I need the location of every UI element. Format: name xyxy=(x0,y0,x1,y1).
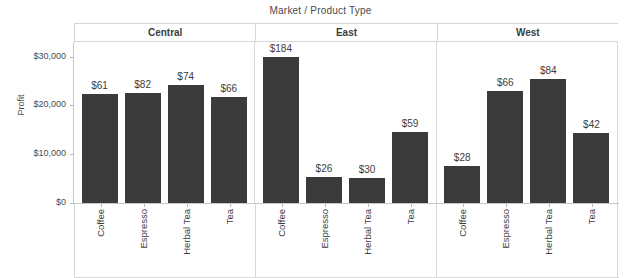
panel-header-west: West xyxy=(438,24,618,41)
x-category-label[interactable]: Tea xyxy=(225,209,235,224)
x-slot: Herbal Tea xyxy=(350,204,386,278)
x-tick-mark xyxy=(549,204,550,207)
panel-header-central: Central xyxy=(74,24,256,41)
x-tick-mark xyxy=(368,204,369,207)
x-tick-mark xyxy=(101,204,102,207)
x-slot: Espresso xyxy=(307,204,343,278)
bar-slot: $66 xyxy=(211,42,247,203)
bar-slot: $28 xyxy=(444,42,480,203)
bar[interactable] xyxy=(530,79,566,203)
panel-bars: $184$26$30$59 xyxy=(255,42,435,203)
bar-chart: Market / Product Type CentralEastWest Pr… xyxy=(0,0,641,278)
x-category-label[interactable]: Coffee xyxy=(458,209,468,237)
x-slot: Coffee xyxy=(445,204,481,278)
panel-east: $184$26$30$59 xyxy=(255,42,436,203)
x-category-label[interactable]: Herbal Tea xyxy=(363,209,373,255)
bar-value-label: $84 xyxy=(518,66,578,76)
bar-value-label: $42 xyxy=(561,120,621,130)
bar-value-label: $30 xyxy=(337,165,397,175)
x-tick-mark xyxy=(411,204,412,207)
panel-west: $28$66$84$42 xyxy=(437,42,618,203)
plot-area: $61$82$74$66$184$26$30$59$28$66$84$42 xyxy=(74,42,618,203)
x-ticks: CoffeeEspressoHerbal TeaTea xyxy=(256,204,436,278)
bar-value-label: $184 xyxy=(251,44,311,54)
x-tick-mark xyxy=(463,204,464,207)
bar-slot: $82 xyxy=(125,42,161,203)
bar[interactable] xyxy=(306,177,342,203)
x-slot: Coffee xyxy=(264,204,300,278)
x-slot: Coffee xyxy=(83,204,119,278)
x-panel-west: CoffeeEspressoHerbal TeaTea xyxy=(437,204,618,278)
x-slot: Herbal Tea xyxy=(169,204,205,278)
panel-header-band: CentralEastWest xyxy=(74,23,618,42)
x-tick-mark xyxy=(230,204,231,207)
bar-value-label: $28 xyxy=(432,153,492,163)
x-slot: Espresso xyxy=(488,204,524,278)
bar[interactable] xyxy=(168,85,204,203)
panel-central: $61$82$74$66 xyxy=(74,42,255,203)
x-category-label[interactable]: Espresso xyxy=(501,209,511,249)
y-tick-label: $10,000 xyxy=(8,149,66,158)
x-category-label[interactable]: Tea xyxy=(587,209,597,224)
y-tick-label: $20,000 xyxy=(8,100,66,109)
x-tick-mark xyxy=(325,204,326,207)
x-slot: Espresso xyxy=(126,204,162,278)
x-category-label[interactable]: Herbal Tea xyxy=(182,209,192,255)
bar-slot: $61 xyxy=(82,42,118,203)
y-tick-mark xyxy=(70,57,74,58)
x-category-label[interactable]: Herbal Tea xyxy=(544,209,554,255)
bar[interactable] xyxy=(82,94,118,203)
x-tick-mark xyxy=(187,204,188,207)
y-tick-mark xyxy=(70,203,74,204)
panel-header-east: East xyxy=(256,24,437,41)
bar-slot: $184 xyxy=(263,42,299,203)
bar[interactable] xyxy=(573,133,609,203)
bar-value-label: $59 xyxy=(380,119,440,129)
x-ticks: CoffeeEspressoHerbal TeaTea xyxy=(75,204,255,278)
x-tick-mark xyxy=(592,204,593,207)
x-tick-mark xyxy=(506,204,507,207)
y-tick-label: $0 xyxy=(8,198,66,207)
x-slot: Tea xyxy=(574,204,610,278)
chart-title: Market / Product Type xyxy=(0,5,641,16)
y-tick-label: $30,000 xyxy=(8,52,66,61)
bar[interactable] xyxy=(125,93,161,203)
x-category-label[interactable]: Coffee xyxy=(96,209,106,237)
x-panel-central: CoffeeEspressoHerbal TeaTea xyxy=(74,204,256,278)
bar[interactable] xyxy=(392,132,428,203)
x-slot: Tea xyxy=(212,204,248,278)
bar-slot: $74 xyxy=(168,42,204,203)
x-slot: Herbal Tea xyxy=(531,204,567,278)
bar-slot: $42 xyxy=(573,42,609,203)
x-category-label[interactable]: Espresso xyxy=(320,209,330,249)
panel-bars: $61$82$74$66 xyxy=(74,42,254,203)
bar-value-label: $66 xyxy=(475,78,535,88)
panel-bars: $28$66$84$42 xyxy=(437,42,617,203)
bar[interactable] xyxy=(263,57,299,203)
bar[interactable] xyxy=(444,166,480,203)
bar[interactable] xyxy=(211,97,247,203)
bar[interactable] xyxy=(349,178,385,203)
y-tick-mark xyxy=(70,105,74,106)
bar-value-label: $74 xyxy=(156,72,216,82)
bar-slot: $59 xyxy=(392,42,428,203)
bar-slot: $26 xyxy=(306,42,342,203)
x-category-label[interactable]: Coffee xyxy=(277,209,287,237)
x-panel-east: CoffeeEspressoHerbal TeaTea xyxy=(256,204,437,278)
x-tick-mark xyxy=(282,204,283,207)
x-tick-mark xyxy=(144,204,145,207)
x-category-label[interactable]: Espresso xyxy=(139,209,149,249)
x-category-label[interactable]: Tea xyxy=(406,209,416,224)
x-slot: Tea xyxy=(393,204,429,278)
x-ticks: CoffeeEspressoHerbal TeaTea xyxy=(437,204,617,278)
bar-value-label: $66 xyxy=(199,84,259,94)
x-axis-row: CoffeeEspressoHerbal TeaTeaCoffeeEspress… xyxy=(74,204,618,278)
y-tick-mark xyxy=(70,154,74,155)
bar[interactable] xyxy=(487,91,523,203)
